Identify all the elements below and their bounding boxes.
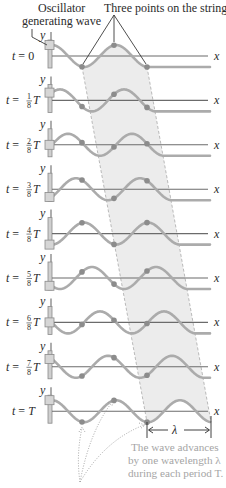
x-axis-label: x: [213, 93, 220, 107]
string-point: [79, 269, 85, 275]
y-axis-label: y: [39, 206, 46, 220]
fraction-numerator: 2: [27, 137, 31, 146]
oscillator-box: [45, 396, 54, 405]
string-point: [111, 355, 117, 361]
fraction-numerator: 7: [27, 359, 31, 368]
x-axis-label: x: [213, 360, 220, 374]
string-point: [144, 220, 150, 226]
time-label: t =: [6, 138, 19, 152]
string-point: [144, 141, 150, 147]
y-axis-label: y: [39, 383, 46, 397]
string-point: [144, 321, 150, 327]
time-label: t =: [6, 93, 19, 107]
fraction-denominator: 8: [27, 368, 31, 377]
fraction-numerator: 1: [27, 92, 31, 101]
oscillator-box: [45, 318, 54, 327]
period-symbol: T: [33, 227, 41, 241]
oscillator-label-line1: Oscillator: [38, 1, 85, 15]
string-point: [144, 373, 150, 379]
string-point: [79, 322, 85, 328]
time-label: t =: [6, 315, 19, 329]
oscillator-box: [45, 140, 54, 149]
period-symbol: T: [33, 360, 41, 374]
string-point: [79, 104, 85, 110]
x-axis-label: x: [213, 182, 220, 196]
time-label: t = 0: [12, 49, 34, 63]
string-point: [111, 317, 117, 323]
string-point: [79, 64, 85, 70]
fraction-denominator: 8: [27, 323, 31, 332]
oscillator-box: [45, 355, 54, 364]
y-axis-label: y: [39, 117, 46, 131]
string-point: [144, 64, 150, 70]
string-point: [111, 242, 117, 248]
y-axis-label: y: [39, 28, 46, 42]
string-point: [111, 42, 117, 48]
y-axis-label: y: [39, 294, 46, 308]
string-point: [79, 177, 85, 183]
period-symbol: T: [33, 182, 41, 196]
time-label: t =: [6, 360, 19, 374]
period-symbol: T: [33, 138, 41, 152]
x-axis-label: x: [213, 271, 220, 285]
string-point: [111, 281, 117, 287]
time-label: t =: [6, 182, 19, 196]
period-symbol: T: [33, 315, 41, 329]
time-label: t = T: [12, 404, 36, 418]
x-axis-label: x: [213, 49, 220, 63]
fraction-denominator: 8: [27, 279, 31, 288]
lambda-label: λ: [171, 423, 177, 437]
string-point: [144, 268, 150, 274]
x-axis-label: x: [213, 227, 220, 241]
time-label: t =: [6, 271, 19, 285]
x-axis-label: x: [213, 138, 220, 152]
oscillator-box: [45, 281, 54, 290]
string-point: [144, 105, 150, 111]
fraction-denominator: 8: [27, 235, 31, 244]
oscillator-box: [45, 240, 54, 249]
string-point: [111, 91, 117, 97]
oscillator-box: [45, 88, 54, 97]
string-point: [144, 178, 150, 184]
y-axis-label: y: [39, 72, 46, 86]
y-axis-label: y: [39, 339, 46, 353]
period-symbol: T: [33, 93, 41, 107]
fraction-denominator: 8: [27, 146, 31, 155]
period-symbol: T: [33, 271, 41, 285]
string-point: [79, 140, 85, 146]
note-line3: during each period T.: [128, 467, 223, 479]
string-point: [79, 419, 85, 425]
x-axis-label: x: [213, 404, 220, 418]
string-point: [79, 373, 85, 379]
three-points-label: Three points on the string: [104, 1, 226, 15]
string-point: [79, 220, 85, 226]
fraction-numerator: 4: [27, 226, 31, 235]
oscillator-box: [45, 192, 54, 201]
note-line2: by one wavelength λ: [128, 454, 221, 466]
fraction-numerator: 5: [27, 270, 31, 279]
time-label: t =: [6, 227, 19, 241]
string-point: [111, 196, 117, 202]
string-point: [111, 144, 117, 150]
fraction-denominator: 8: [27, 190, 31, 199]
traveling-wave-diagram: yxt = 0yxt = 18Tyxt = 28Tyxt = 38Tyxt = …: [0, 0, 226, 488]
x-axis-label: x: [213, 315, 220, 329]
time-row: yxt = 58T: [6, 250, 220, 290]
fraction-numerator: 3: [27, 181, 31, 190]
fraction-denominator: 8: [27, 101, 31, 110]
y-axis-label: y: [39, 161, 46, 175]
note-line1: The wave advances: [131, 441, 219, 453]
oscillator-label-line2: generating wave: [22, 14, 101, 28]
y-axis-label: y: [39, 250, 46, 264]
fraction-numerator: 6: [27, 314, 31, 323]
